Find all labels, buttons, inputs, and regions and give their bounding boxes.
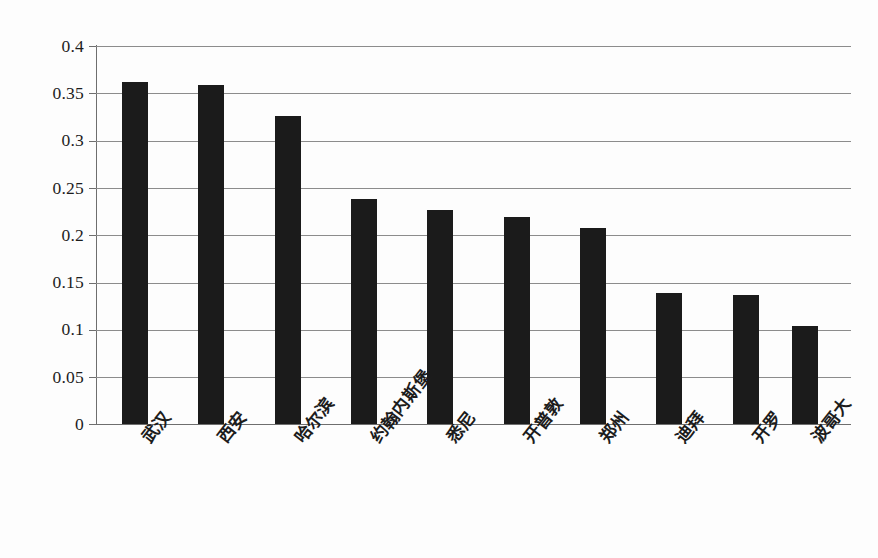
y-tick-mark-0.35 — [89, 93, 96, 94]
y-tick-mark-0 — [89, 424, 96, 425]
plot-area — [96, 46, 851, 424]
y-tick-mark-0.05 — [89, 377, 96, 378]
y-tick-label-0.2: 0.2 — [62, 227, 84, 245]
bar-zhengzhou[interactable] — [580, 228, 606, 424]
bar-cairo[interactable] — [733, 295, 759, 424]
bar-johannesburg[interactable] — [351, 199, 377, 424]
y-tick-mark-0.1 — [89, 330, 96, 331]
gridline-0.4 — [96, 46, 851, 47]
bar-sydney[interactable] — [427, 210, 453, 424]
bar-bogota[interactable] — [792, 326, 818, 424]
y-tick-label-0.05: 0.05 — [53, 369, 84, 387]
y-tick-label-0: 0 — [75, 416, 84, 434]
y-tick-label-0.1: 0.1 — [62, 321, 84, 339]
y-tick-label-0.15: 0.15 — [53, 274, 84, 292]
x-axis-category-labels: 武汉 西安 哈尔滨 约翰内斯堡 悉尼 开普敦 郑州 迪拜 开罗 波哥大 — [96, 424, 878, 558]
y-tick-label-0.35: 0.35 — [53, 85, 84, 103]
y-tick-mark-0.15 — [89, 283, 96, 284]
bar-capetown[interactable] — [504, 217, 530, 424]
y-tick-mark-0.25 — [89, 188, 96, 189]
y-tick-label-0.3: 0.3 — [62, 132, 84, 150]
bar-dubai[interactable] — [656, 293, 682, 424]
bar-xian[interactable] — [198, 85, 224, 424]
y-tick-mark-0.2 — [89, 235, 96, 236]
y-tick-label-0.4: 0.4 — [62, 38, 84, 56]
y-tick-label-0.25: 0.25 — [53, 180, 84, 198]
y-tick-mark-0.4 — [89, 46, 96, 47]
y-axis-tick-labels: 0.4 0.35 0.3 0.25 0.2 0.15 0.1 0.05 0 — [0, 0, 84, 558]
bar-chart-figure: 0.4 0.35 0.3 0.25 0.2 0.15 0.1 0.05 0 — [0, 0, 878, 558]
y-tick-mark-0.3 — [89, 141, 96, 142]
bar-wuhan[interactable] — [122, 82, 148, 424]
bar-harbin[interactable] — [275, 116, 301, 424]
